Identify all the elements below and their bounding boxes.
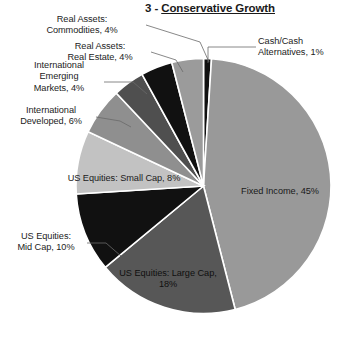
label-us-equities-mid-cap: US Equities: Mid Cap, 10% xyxy=(4,231,88,254)
leader-line-commodities xyxy=(146,25,209,62)
pie-chart-figure: 3 - Conservative Growth Real Assets: Com… xyxy=(0,0,345,337)
label-international-developed: International Developed, 6% xyxy=(6,105,96,128)
label-cash-alternatives: Cash/Cash Alternatives, 1% xyxy=(258,36,344,59)
label-international-emerging-markets: International Emerging Markets, 4% xyxy=(14,60,104,94)
label-us-equities-small-cap: US Equities: Small Cap, 8% xyxy=(60,173,188,184)
label-fixed-income: Fixed Income, 45% xyxy=(225,186,335,197)
label-us-equities-large-cap: US Equities: Large Cap, 18% xyxy=(113,268,223,291)
label-real-assets-commodities: Real Assets: Commodities, 4% xyxy=(18,14,146,37)
